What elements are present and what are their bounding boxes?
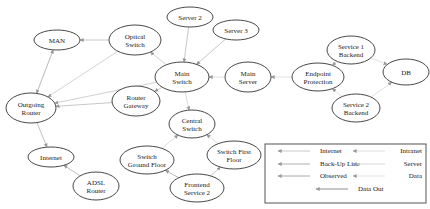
node-label: Optical bbox=[125, 33, 146, 41]
node-label: Backend bbox=[339, 51, 364, 59]
node-label: Switch bbox=[182, 125, 202, 133]
node-man[interactable]: MAN bbox=[34, 30, 80, 50]
edge-switch_ground_floor-to-central_switch bbox=[162, 135, 178, 148]
node-switch-first-floor[interactable]: Switch FirstFloor bbox=[207, 141, 261, 169]
node-label: Internet bbox=[40, 154, 62, 162]
node-label: Central bbox=[182, 117, 203, 125]
node-switch-ground-floor[interactable]: SwitchGround Floor bbox=[120, 146, 174, 174]
legend: InternetBack-Up LineObservedIntranetServ… bbox=[265, 144, 426, 203]
node-label: Switch bbox=[137, 153, 157, 161]
node-label: ADSL bbox=[87, 179, 105, 187]
node-router-gateway[interactable]: RouterGateway bbox=[112, 86, 160, 116]
network-diagram: MANOpticalSwitchServer 2Server 3MainSwit… bbox=[0, 0, 430, 209]
edge-main_switch-to-optical_switch bbox=[150, 52, 166, 65]
legend-label: Internet bbox=[320, 147, 342, 155]
node-label: Switch bbox=[172, 78, 192, 86]
edge-adsl_router-to-internet bbox=[64, 165, 80, 176]
edge-service2_backend-to-db bbox=[371, 82, 392, 97]
edge-server2-to-main_switch bbox=[184, 27, 189, 62]
node-label: DB bbox=[401, 69, 411, 77]
node-label: Switch bbox=[125, 41, 145, 49]
node-main-switch[interactable]: MainSwitch bbox=[155, 62, 209, 92]
node-label: Backend bbox=[344, 109, 369, 117]
node-label: Outgoing bbox=[18, 101, 45, 109]
node-label: Router bbox=[126, 94, 146, 102]
node-label: Router bbox=[21, 109, 41, 117]
node-label: Router bbox=[86, 187, 106, 195]
node-optical-switch[interactable]: OpticalSwitch bbox=[109, 25, 161, 55]
node-label: Server bbox=[239, 78, 258, 86]
edge-switch_first_floor-to-central_switch bbox=[207, 135, 219, 144]
node-internet[interactable]: Internet bbox=[28, 147, 74, 167]
node-label: Gateway bbox=[124, 102, 149, 110]
edge-optical_switch-to-outgoing_router bbox=[48, 51, 118, 97]
node-label: MAN bbox=[49, 37, 65, 45]
edge-main_switch-to-central_switch bbox=[185, 92, 189, 110]
node-label: Server 2 bbox=[178, 14, 202, 22]
node-label: Protection bbox=[304, 78, 333, 86]
edge-frontend_service2-to-switch_ground_floor bbox=[165, 170, 178, 177]
node-label: Service 2 bbox=[184, 189, 211, 197]
node-label: Frontend bbox=[184, 181, 210, 189]
edge-man-to-outgoing_router bbox=[37, 50, 54, 94]
edge-outgoing_router-to-internet bbox=[37, 123, 47, 148]
node-endpoint-protection[interactable]: EndpointProtection bbox=[292, 63, 344, 91]
edge-frontend_service2-to-switch_first_floor bbox=[211, 167, 221, 176]
edge-router_gateway-to-outgoing_router bbox=[56, 103, 112, 107]
node-label: Main bbox=[241, 70, 256, 78]
node-label: Ground Floor bbox=[128, 161, 167, 169]
legend-label: Server bbox=[404, 160, 423, 168]
edge-service2_backend-to-endpoint_protection bbox=[332, 89, 342, 97]
legend-label: Intranet bbox=[400, 147, 422, 155]
node-server2[interactable]: Server 2 bbox=[167, 7, 213, 27]
edge-server3-to-main_switch bbox=[197, 39, 226, 64]
node-label: Endpoint bbox=[305, 70, 331, 78]
node-outgoing-router[interactable]: OutgoingRouter bbox=[6, 93, 56, 123]
node-label: Service 2 bbox=[343, 101, 370, 109]
node-label: Service 1 bbox=[338, 43, 365, 51]
node-server3[interactable]: Server 3 bbox=[213, 20, 259, 40]
node-label: Floor bbox=[226, 156, 242, 164]
node-label: Server 3 bbox=[224, 27, 248, 35]
edge-main_switch-to-router_gateway bbox=[154, 87, 162, 91]
legend-label: Observed bbox=[320, 172, 347, 180]
node-main-server[interactable]: MainServer bbox=[225, 62, 271, 92]
node-db[interactable]: DB bbox=[383, 59, 429, 85]
node-adsl-router[interactable]: ADSLRouter bbox=[73, 172, 119, 200]
legend-label: Data Out bbox=[358, 185, 384, 193]
node-service2-backend[interactable]: Service 2Backend bbox=[332, 94, 380, 122]
edge-service1_backend-to-db bbox=[371, 58, 387, 65]
node-label: Switch First bbox=[217, 148, 251, 156]
edge-service1_backend-to-endpoint_protection bbox=[332, 61, 337, 65]
node-service1-backend[interactable]: Service 1Backend bbox=[327, 36, 375, 64]
node-frontend-service2[interactable]: FrontendService 2 bbox=[170, 174, 224, 202]
legend-label: Data bbox=[409, 172, 423, 180]
node-central-switch[interactable]: CentralSwitch bbox=[169, 110, 215, 138]
node-label: Main bbox=[175, 70, 190, 78]
